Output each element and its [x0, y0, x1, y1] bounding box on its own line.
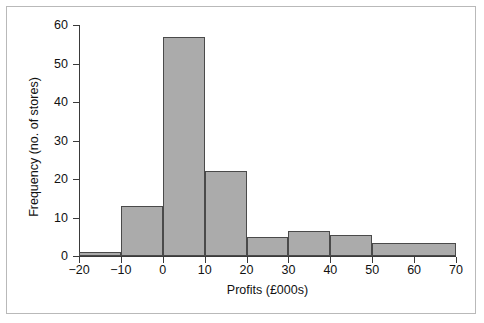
y-tick-mark — [73, 141, 79, 142]
x-axis-title: Profits (£000s) — [79, 283, 456, 297]
y-tick-label: 50 — [44, 58, 68, 71]
histogram-bar — [247, 237, 289, 256]
x-tick-label: 10 — [185, 264, 225, 277]
plot-area: 0102030405060 −20−10010203040506070 Prof… — [0, 0, 484, 323]
histogram-bar — [205, 171, 247, 256]
y-tick-label: 30 — [44, 135, 68, 148]
histogram-bar — [121, 206, 163, 256]
x-tick-label: 30 — [268, 264, 308, 277]
y-tick-mark — [73, 218, 79, 219]
y-axis-line — [79, 25, 80, 257]
x-tick-label: 60 — [394, 264, 434, 277]
histogram-bar — [288, 231, 330, 256]
y-tick-label: 20 — [44, 173, 68, 186]
x-axis-line — [79, 256, 456, 257]
histogram-figure: 0102030405060 −20−10010203040506070 Prof… — [0, 0, 484, 323]
x-tick-label: 0 — [143, 264, 183, 277]
histogram-bar — [79, 252, 121, 256]
x-tick-label: −20 — [59, 264, 99, 277]
x-tick-label: 50 — [352, 264, 392, 277]
y-axis-title: Frequency (no. of stores) — [27, 31, 41, 263]
histogram-bar — [372, 243, 456, 256]
x-tick-label: 70 — [436, 264, 476, 277]
x-tick-label: −10 — [101, 264, 141, 277]
histogram-bar — [330, 235, 372, 256]
x-tick-label: 40 — [310, 264, 350, 277]
y-tick-label: 0 — [44, 250, 68, 263]
y-tick-label: 40 — [44, 96, 68, 109]
x-tick-label: 20 — [227, 264, 267, 277]
y-tick-mark — [73, 102, 79, 103]
y-tick-label: 60 — [44, 19, 68, 32]
y-tick-mark — [73, 25, 79, 26]
y-tick-mark — [73, 64, 79, 65]
histogram-bar — [163, 37, 205, 256]
y-tick-label: 10 — [44, 212, 68, 225]
y-tick-mark — [73, 179, 79, 180]
